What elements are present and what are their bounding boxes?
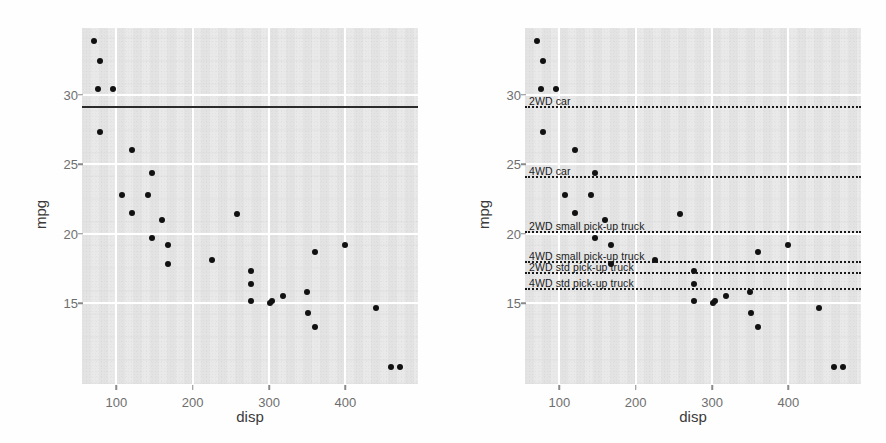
data-point — [91, 38, 97, 44]
data-point — [373, 305, 379, 311]
y-tick-label: 30 — [64, 87, 78, 102]
y-tick-label: 15 — [64, 296, 78, 311]
x-gridline — [115, 28, 117, 384]
y-tick-mark — [78, 233, 83, 235]
paper-showthrough-texture — [525, 28, 861, 384]
reference-line-label: 2WD car — [529, 95, 571, 107]
y-tick-mark — [78, 303, 83, 305]
data-point — [831, 364, 837, 370]
y-tick-label: 30 — [507, 87, 521, 102]
data-point — [149, 170, 155, 176]
y-gridline — [82, 233, 418, 235]
data-point — [572, 210, 578, 216]
y-tick-mark — [521, 164, 526, 166]
data-point — [608, 242, 614, 248]
x-gridline — [268, 28, 270, 384]
data-point — [129, 210, 135, 216]
data-point — [234, 211, 240, 217]
data-point — [95, 86, 101, 92]
x-gridline — [192, 28, 194, 384]
x-gridline — [344, 28, 346, 384]
data-point — [248, 268, 254, 274]
reference-line-label: 2WD std pick-up truck — [529, 261, 634, 273]
data-point — [165, 242, 171, 248]
data-point — [677, 211, 683, 217]
data-point — [691, 268, 697, 274]
y-tick-mark — [78, 164, 83, 166]
reference-line-label: 2WD small pick-up truck — [529, 220, 645, 232]
y-axis-title-right: mpg — [475, 175, 492, 255]
data-point — [280, 293, 286, 299]
data-point — [588, 192, 594, 198]
left-plot-area: 10020030040015202530 — [82, 28, 418, 384]
data-point — [248, 281, 254, 287]
reference-line — [82, 106, 418, 108]
reference-line-label: 4WD car — [529, 165, 571, 177]
data-point — [747, 289, 753, 295]
data-point — [540, 129, 546, 135]
data-point — [572, 147, 578, 153]
data-point — [312, 249, 318, 255]
data-point — [553, 86, 559, 92]
x-tick-mark — [116, 385, 118, 390]
y-tick-label: 20 — [507, 226, 521, 241]
y-tick-label: 25 — [507, 157, 521, 172]
x-tick-mark — [635, 385, 637, 390]
data-point — [840, 364, 846, 370]
data-point — [755, 324, 761, 330]
data-point — [538, 86, 544, 92]
x-tick-mark — [345, 385, 347, 390]
data-point — [816, 305, 822, 311]
y-gridline — [82, 163, 418, 165]
y-gridline — [525, 163, 861, 165]
data-point — [748, 310, 754, 316]
data-point — [397, 364, 403, 370]
y-tick-mark — [78, 94, 83, 96]
x-axis-title-right: disp — [525, 408, 861, 425]
x-gridline — [787, 28, 789, 384]
y-tick-label: 20 — [64, 226, 78, 241]
data-point — [691, 298, 697, 304]
scan-grain-texture — [525, 28, 861, 384]
y-gridline — [525, 94, 861, 96]
data-point — [592, 170, 598, 176]
data-point — [110, 86, 116, 92]
left-plot-panel: 10020030040015202530 mpg disp — [0, 0, 443, 443]
data-point — [165, 261, 171, 267]
x-tick-mark — [788, 385, 790, 390]
data-point — [145, 192, 151, 198]
data-point — [710, 300, 716, 306]
data-point — [534, 38, 540, 44]
data-point — [305, 310, 311, 316]
reference-line — [525, 106, 861, 108]
data-point — [267, 300, 273, 306]
data-point — [342, 242, 348, 248]
reference-line — [525, 176, 861, 178]
x-axis-title-left: disp — [82, 408, 418, 425]
data-point — [755, 249, 761, 255]
data-point — [304, 289, 310, 295]
reference-line-label: 4WD std pick-up truck — [529, 277, 634, 289]
data-point — [209, 257, 215, 263]
y-axis-title-left: mpg — [32, 175, 49, 255]
x-gridline — [558, 28, 560, 384]
data-point — [312, 324, 318, 330]
y-tick-label: 15 — [507, 296, 521, 311]
y-tick-mark — [521, 303, 526, 305]
data-point — [592, 235, 598, 241]
data-point — [562, 192, 568, 198]
x-gridline — [635, 28, 637, 384]
data-point — [540, 58, 546, 64]
data-point — [149, 235, 155, 241]
data-point — [691, 281, 697, 287]
y-gridline — [82, 94, 418, 96]
scan-grain-texture — [82, 28, 418, 384]
x-tick-mark — [559, 385, 561, 390]
x-tick-mark — [192, 385, 194, 390]
x-tick-mark — [268, 385, 270, 390]
y-tick-label: 25 — [64, 157, 78, 172]
right-plot-panel: 100200300400152025302WD car4WD car2WD sm… — [443, 0, 886, 443]
data-point — [97, 58, 103, 64]
data-point — [97, 129, 103, 135]
data-point — [129, 147, 135, 153]
